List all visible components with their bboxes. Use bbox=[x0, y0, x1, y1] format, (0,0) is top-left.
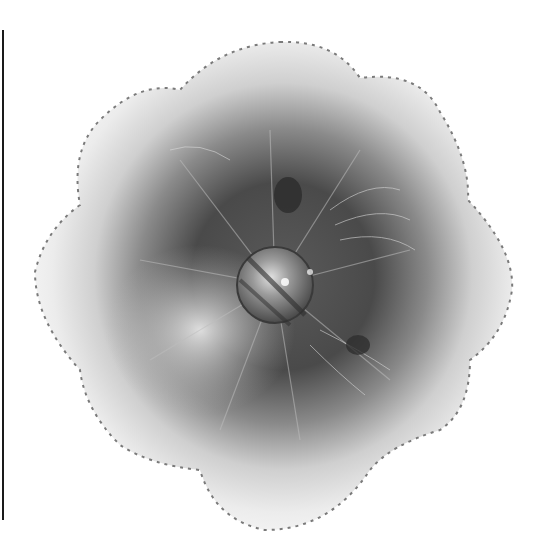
bud-lower-right bbox=[346, 335, 370, 355]
glass-bowl-photo bbox=[0, 0, 560, 556]
bud-top bbox=[274, 177, 302, 213]
